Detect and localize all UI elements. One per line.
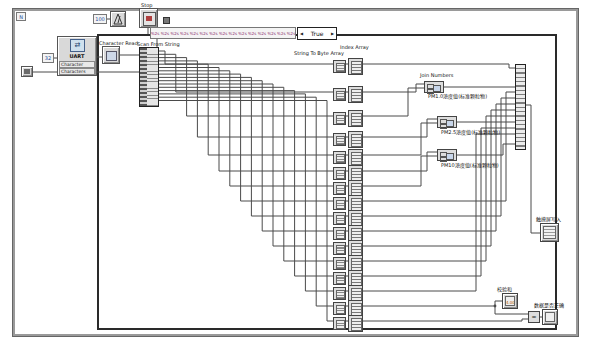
string-to-byte-array-node[interactable]	[333, 317, 346, 330]
scan-output-terminals	[147, 48, 158, 106]
string-to-byte-array-node[interactable]	[333, 242, 346, 255]
array-indicator[interactable]	[540, 223, 559, 242]
loop-count-terminal[interactable]: N	[16, 12, 26, 21]
wait-ms-constant[interactable]: 100	[93, 14, 107, 24]
stop-label: Stop	[141, 2, 152, 8]
case-prev-arrow-icon[interactable]: ◀	[300, 31, 303, 36]
converter-row	[333, 110, 365, 128]
uart-express-vi[interactable]: ⇄ UART Character Coun Characters Read	[57, 36, 97, 76]
join-numbers-label: Join Numbers	[420, 72, 453, 78]
uart-icon: ⇄	[70, 39, 85, 52]
index-array-node[interactable]	[348, 86, 363, 103]
case-selector-value: True	[311, 30, 324, 37]
string-to-byte-array-node[interactable]	[333, 287, 346, 300]
string-to-byte-array-node[interactable]	[333, 151, 346, 164]
case-selector[interactable]: ◀ True ▶	[297, 27, 337, 40]
wait-ms-node[interactable]	[110, 11, 126, 27]
labview-block-diagram: N 100 Stop ◀ True ▶ ⇄ UART Character Cou…	[0, 0, 591, 342]
index-array-node[interactable]	[348, 110, 363, 127]
pm1-output-label: PM1.0浓度值(标准颗粒物)	[428, 93, 487, 99]
join-numbers-node-pm10[interactable]	[437, 149, 457, 161]
index-array-node[interactable]	[348, 149, 363, 166]
character-count-constant[interactable]: 32	[42, 53, 54, 63]
array-indicator-label: 触摸屏写入	[536, 216, 561, 222]
converter-row	[333, 315, 365, 333]
small-terminal-icon[interactable]	[163, 17, 170, 24]
index-array-node[interactable]	[348, 131, 363, 148]
string-to-byte-array-node[interactable]	[333, 212, 346, 225]
valid-indicator[interactable]	[542, 309, 558, 325]
checksum-indicator-label: 校验和	[497, 286, 512, 292]
valid-indicator-label: 数据是否正确	[534, 302, 564, 308]
string-to-byte-array-node[interactable]	[333, 197, 346, 210]
string-to-byte-array-node[interactable]	[333, 257, 346, 270]
string-to-byte-array-node[interactable]	[333, 88, 346, 101]
array-indicator-icon	[543, 226, 556, 239]
uart-input-row: Character Coun	[59, 61, 95, 68]
index-array-node[interactable]	[348, 58, 363, 75]
uart-output-row: Characters Read	[59, 68, 95, 75]
build-array-node[interactable]	[515, 64, 526, 150]
equal-comparator-node[interactable]: =	[528, 311, 540, 323]
string-to-byte-array-node[interactable]	[333, 167, 346, 180]
pm25-output-label: PM2.5浓度值(标准颗粒物)	[441, 129, 500, 135]
metronome-icon	[111, 12, 125, 26]
converter-row	[333, 131, 365, 149]
checksum-indicator[interactable]: 4.00	[502, 293, 518, 309]
join-numbers-node-pm25[interactable]	[437, 116, 457, 128]
converter-row	[333, 58, 365, 76]
checksum-indicator-value: 4.00	[505, 296, 515, 306]
character-read-node[interactable]	[102, 46, 120, 64]
string-to-byte-array-node[interactable]	[333, 112, 346, 125]
string-to-byte-array-node[interactable]	[333, 133, 346, 146]
string-to-byte-array-node[interactable]	[333, 227, 346, 240]
join-numbers-node-pm1[interactable]	[424, 81, 444, 93]
uart-title: UART	[58, 53, 96, 59]
index-array-node[interactable]	[348, 315, 363, 332]
string-to-byte-array-node[interactable]	[333, 302, 346, 315]
stop-button-terminal[interactable]	[139, 8, 158, 28]
character-read-label: Character Read	[99, 40, 138, 46]
index-array-label: Index Array	[340, 44, 369, 50]
converter-row	[333, 86, 365, 104]
string-to-byte-array-node[interactable]	[333, 60, 346, 73]
left-terminal[interactable]	[21, 66, 33, 77]
string-to-byte-array-label: String To Byte Array	[294, 50, 344, 56]
format-string-constant[interactable]: %2s %2s %2s %2s %2s %2s %2s %2s %2s %2s …	[150, 27, 296, 39]
string-to-byte-array-node[interactable]	[333, 182, 346, 195]
case-next-arrow-icon[interactable]: ▶	[331, 31, 334, 36]
string-to-byte-array-node[interactable]	[333, 272, 346, 285]
valid-indicator-icon	[545, 312, 555, 322]
pm10-output-label: PM10浓度值(标准颗粒物)	[441, 162, 499, 168]
scan-from-string-label: Scan From String	[137, 41, 180, 47]
scan-from-string-node[interactable]	[139, 47, 159, 107]
